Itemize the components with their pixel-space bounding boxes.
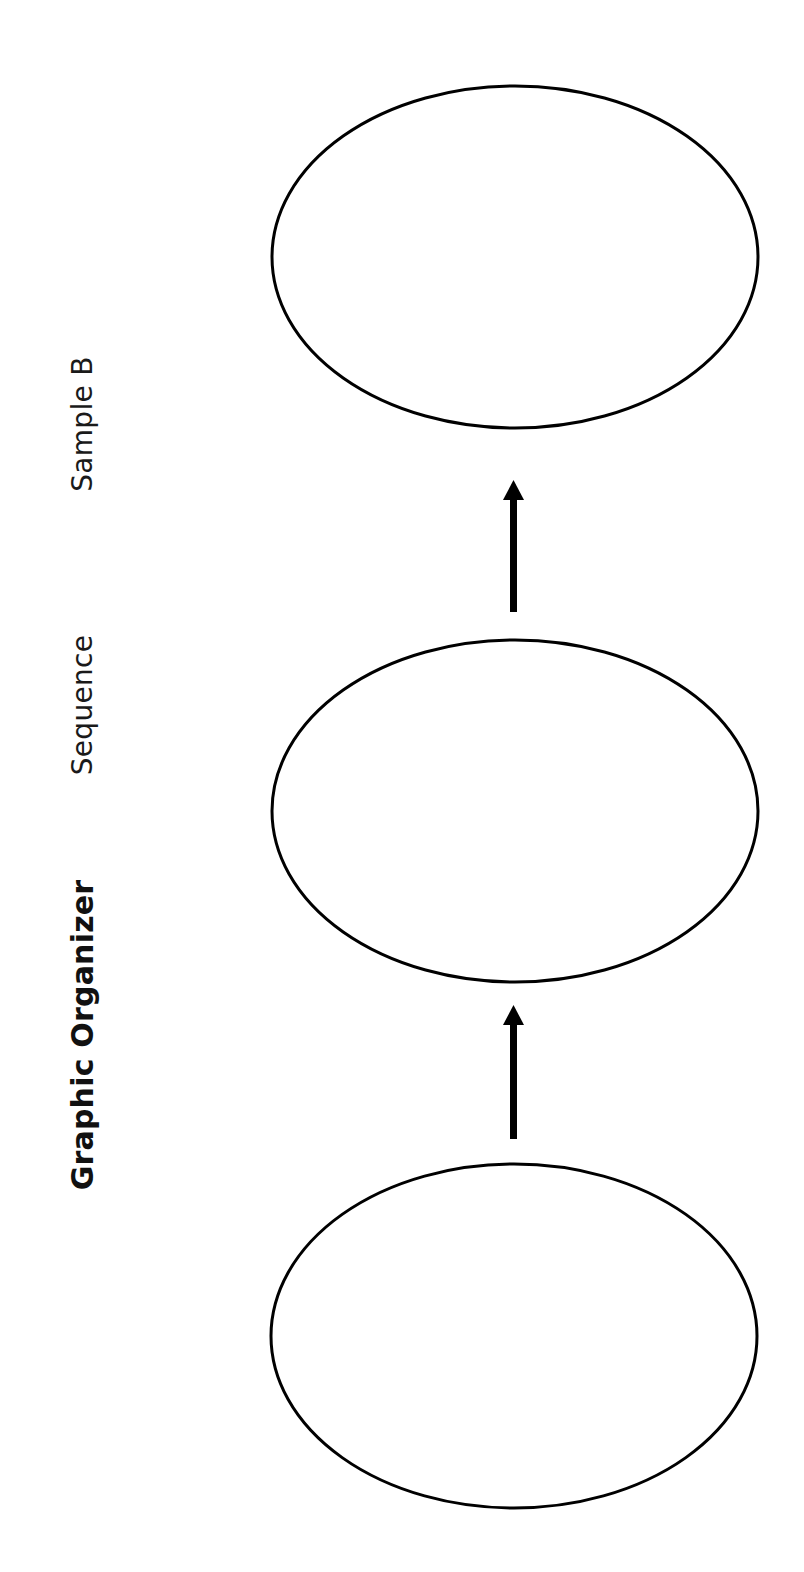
sequence-step-3-ellipse[interactable] <box>272 86 758 428</box>
worksheet-page: Graphic Organizer Sequence Sample B <box>0 0 804 1572</box>
sequence-step-1-ellipse[interactable] <box>271 1164 757 1508</box>
sequence-step-2-ellipse[interactable] <box>272 640 758 982</box>
arrow-up-icon <box>503 480 524 612</box>
sequence-diagram <box>0 0 804 1572</box>
arrow-up-icon <box>503 1005 524 1139</box>
